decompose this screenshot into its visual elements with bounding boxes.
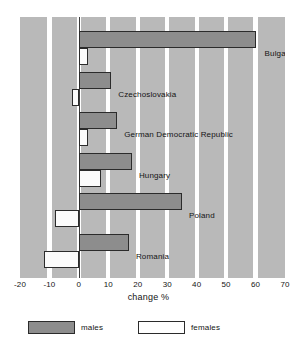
legend-item-males: males xyxy=(28,320,138,336)
x-axis-ticks: -20-10010203040506070 xyxy=(20,278,285,292)
legend-label-females: females xyxy=(191,323,220,333)
category-label: Romania xyxy=(136,252,169,261)
bar-group: Bulgaria xyxy=(20,31,285,65)
x-tick-label: 20 xyxy=(133,280,142,289)
category-label: Czechoslovakia xyxy=(118,90,176,99)
bar-females xyxy=(79,129,88,146)
bar-males xyxy=(79,234,129,251)
bar-males xyxy=(79,153,132,170)
category-label: German Democratic Republic xyxy=(124,130,233,139)
x-axis-label: change % xyxy=(0,292,297,303)
bar-males xyxy=(79,72,111,89)
bar-females xyxy=(44,251,79,268)
bar-males xyxy=(79,112,117,129)
x-tick-label: 0 xyxy=(77,280,82,289)
bar-group: German Democratic Republic xyxy=(20,112,285,146)
legend-swatch-females xyxy=(138,321,185,334)
chart-legend: males females xyxy=(28,320,258,338)
bar-males xyxy=(79,193,182,210)
bar-females xyxy=(55,210,79,227)
category-label: Bulgaria xyxy=(265,49,285,58)
legend-item-females: females xyxy=(138,320,248,336)
x-tick-label: 70 xyxy=(280,280,289,289)
bar-females xyxy=(72,89,79,106)
x-tick-label: 50 xyxy=(222,280,231,289)
category-label: Poland xyxy=(189,211,215,220)
category-label: Hungary xyxy=(139,171,170,180)
bar-group: Poland xyxy=(20,193,285,227)
x-tick-label: -10 xyxy=(44,280,56,289)
bar-group: Hungary xyxy=(20,153,285,187)
bar-males xyxy=(79,31,256,48)
x-tick-label: 30 xyxy=(163,280,172,289)
bar-group: Czechoslovakia xyxy=(20,72,285,106)
chart-figure: BulgariaCzechoslovakiaGerman Democratic … xyxy=(0,0,297,346)
x-tick-label: 40 xyxy=(192,280,201,289)
x-tick-label: -20 xyxy=(14,280,26,289)
bar-group: Romania xyxy=(20,234,285,268)
bar-females xyxy=(79,170,101,187)
legend-label-males: males xyxy=(81,323,103,333)
x-tick-label: 60 xyxy=(251,280,260,289)
bar-females xyxy=(79,48,88,65)
legend-swatch-males xyxy=(28,321,75,334)
plot-area: BulgariaCzechoslovakiaGerman Democratic … xyxy=(20,17,285,278)
x-tick-label: 10 xyxy=(104,280,113,289)
